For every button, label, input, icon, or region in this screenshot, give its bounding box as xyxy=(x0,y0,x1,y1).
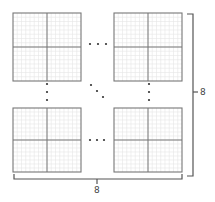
blocks-group xyxy=(13,13,182,172)
bottom-brace-label: 8 xyxy=(94,185,100,195)
ellipsis-dot xyxy=(96,139,98,141)
ellipsis-dot xyxy=(46,91,48,93)
ellipsis-dot xyxy=(148,91,150,93)
right-brace-label: 8 xyxy=(200,87,206,97)
ellipsis-dot xyxy=(103,139,105,141)
ellipsis-dot xyxy=(105,43,107,45)
ellipsis-dot xyxy=(89,139,91,141)
block-bottom-right xyxy=(114,108,182,172)
block-grid-diagram: 8 8 xyxy=(0,0,215,202)
ellipsis-dot xyxy=(97,43,99,45)
bottom-brace xyxy=(14,174,182,184)
ellipsis-dot xyxy=(46,99,48,101)
ellipsis-dots xyxy=(46,43,150,141)
block-top-right xyxy=(114,13,182,81)
ellipsis-dot xyxy=(148,83,150,85)
ellipsis-dot xyxy=(148,99,150,101)
ellipsis-dot xyxy=(96,90,98,92)
ellipsis-dot xyxy=(89,43,91,45)
ellipsis-dot xyxy=(102,96,104,98)
block-top-left xyxy=(13,13,81,81)
block-bottom-left xyxy=(13,108,81,172)
ellipsis-dot xyxy=(46,83,48,85)
right-brace xyxy=(187,14,198,176)
ellipsis-dot xyxy=(90,84,92,86)
